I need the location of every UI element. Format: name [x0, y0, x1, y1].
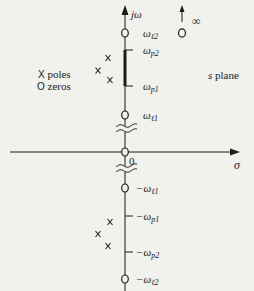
wl1-sub: ℓ1 — [151, 114, 158, 123]
zero-origin-icon — [122, 148, 129, 156]
infinity-arrowhead-icon — [180, 5, 185, 12]
sigma-axis-label: σ — [234, 160, 240, 171]
wp2-label: ωp2 — [143, 45, 159, 59]
legend-poles: X poles — [38, 69, 71, 80]
legend-zero-label: zeros — [48, 80, 71, 92]
wp1-label: ωp1 — [143, 81, 159, 95]
neg-wl1-base: −ω — [136, 182, 151, 194]
wp1-base: ω — [143, 80, 151, 92]
legend-pole-label: poles — [47, 68, 70, 80]
sigma-axis-arrowhead-icon — [230, 149, 240, 156]
pole-icon — [96, 231, 101, 237]
axis-break-upper-icon — [116, 124, 137, 133]
neg-wp1-base: −ω — [136, 210, 151, 222]
neg-wp2-base: −ω — [136, 246, 151, 258]
wl2-base: ω — [143, 27, 151, 39]
neg-wl2-label: −ωℓ2 — [136, 274, 159, 288]
zero-neg-wl1-icon — [122, 184, 129, 192]
neg-wl2-sub: ℓ2 — [151, 278, 158, 287]
wl1-label: ωℓ1 — [143, 110, 158, 124]
s-plane-word: plane — [215, 69, 239, 81]
poles-upper — [96, 55, 113, 83]
wl2-label: ωℓ2 — [143, 28, 158, 42]
poles-lower — [96, 219, 113, 249]
legend-zero-symbol: O — [37, 81, 45, 92]
zero-infinity-icon — [179, 29, 186, 37]
origin-label: 0 — [129, 156, 135, 167]
zero-wl2-icon — [122, 29, 129, 37]
pole-icon — [106, 55, 111, 61]
wl2-sub: ℓ2 — [151, 32, 158, 41]
s-plane-diagram — [0, 0, 254, 291]
neg-wl1-label: −ωℓ1 — [136, 183, 159, 197]
jw-axis-arrowhead-icon — [122, 5, 129, 15]
jw-axis-label: jω — [131, 9, 142, 20]
neg-wp2-label: −ωp2 — [136, 247, 159, 261]
neg-wp1-sub: p1 — [151, 215, 159, 224]
wp1-sub: p1 — [151, 85, 159, 94]
infinity-label: ∞ — [192, 16, 201, 27]
pole-icon — [108, 77, 113, 83]
neg-wl2-base: −ω — [136, 273, 151, 285]
zero-wl1-icon — [122, 111, 129, 119]
neg-wp2-sub: p2 — [151, 251, 159, 260]
s-plane-title: s plane — [208, 70, 239, 81]
neg-wl1-sub: ℓ1 — [151, 187, 158, 196]
wl1-base: ω — [143, 109, 151, 121]
legend-zeros: O zeros — [37, 81, 71, 92]
pole-icon — [106, 243, 111, 249]
legend-pole-symbol: X — [38, 69, 45, 80]
wp2-sub: p2 — [151, 49, 159, 58]
pole-icon — [108, 219, 113, 225]
wp2-base: ω — [143, 44, 151, 56]
pole-icon — [96, 68, 101, 74]
neg-wp1-label: −ωp1 — [136, 211, 159, 225]
zero-neg-wl2-icon — [122, 275, 129, 283]
